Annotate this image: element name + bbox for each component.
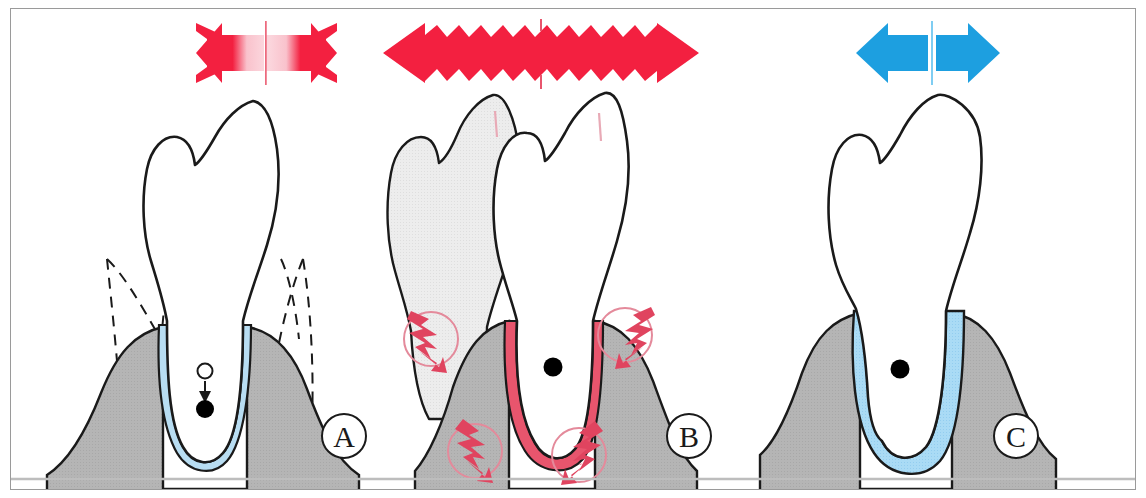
figure-root: Periodontal ligament response to occlusa… (0, 0, 1146, 498)
tooth-center-dot (891, 360, 910, 379)
panel-label-c-text: C (1006, 420, 1026, 453)
panel-label-c: C (994, 414, 1038, 458)
figure-frame: A (10, 8, 1136, 490)
tooth-center-dot (544, 358, 563, 377)
figure-title: Periodontal ligament response to occlusa… (0, 0, 1, 1)
panel-label-b-text: B (679, 420, 699, 453)
panel-c[interactable]: C (742, 9, 1135, 489)
force-arrow-solid-blue (856, 21, 1000, 85)
tooth-center-dot (196, 400, 214, 418)
panel-a[interactable]: A (11, 9, 367, 489)
panel-b[interactable]: B (367, 9, 742, 489)
panel-label-b: B (667, 414, 711, 458)
panel-label-a: A (322, 414, 366, 458)
force-arrow-jagged-red (383, 23, 699, 83)
panel-label-a-text: A (333, 420, 355, 453)
force-arrow-gradient-red (196, 21, 337, 85)
